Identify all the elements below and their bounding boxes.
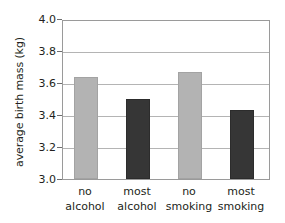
bar (126, 99, 150, 179)
y-tick-label: 3.8 (30, 46, 56, 57)
y-tick-label: 3.4 (30, 110, 56, 121)
y-tick-label: 3.2 (30, 142, 56, 153)
y-tick-label: 4.0 (30, 14, 56, 25)
x-tick-label-line: smoking (203, 199, 279, 214)
bar-chart: average birth mass (kg) 3.03.23.43.63.84… (0, 0, 285, 223)
y-axis-title: average birth mass (kg) (9, 22, 31, 182)
bar (230, 110, 254, 179)
y-tick-label: 3.6 (30, 78, 56, 89)
bar (74, 77, 98, 179)
bar (178, 72, 202, 179)
plot-area (62, 20, 270, 180)
gridline (63, 52, 269, 53)
x-tick-label-line: most (203, 184, 279, 199)
x-tick-label: mostsmoking (203, 184, 279, 214)
